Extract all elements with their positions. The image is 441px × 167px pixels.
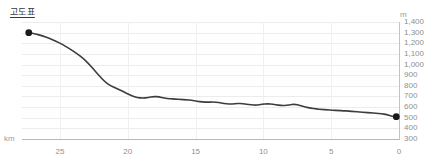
y-tick-label: 300 [404, 134, 417, 143]
y-tick-label: 1,000 [404, 60, 424, 69]
y-tick-label: 1,400 [404, 17, 424, 26]
y-tick-label: 800 [404, 81, 417, 90]
y-tick-label: 1,300 [404, 28, 424, 37]
elevation-line-path [29, 33, 397, 117]
y-tick-label: 500 [404, 113, 417, 122]
y-tick-label: 1,200 [404, 38, 424, 47]
y-tick-label: 400 [404, 123, 417, 132]
horizontal-gridlines [22, 23, 399, 140]
x-tick-label: 25 [56, 147, 65, 156]
x-tick-label: 10 [259, 147, 268, 156]
y-tick-label: 1,100 [404, 49, 424, 58]
vertical-gridlines [61, 22, 400, 139]
elevation-profile-plot [0, 0, 441, 167]
y-tick-label: 900 [404, 70, 417, 79]
end-point-marker [393, 113, 400, 120]
elevation-endpoint-markers [25, 29, 399, 120]
x-tick-label: 15 [191, 147, 200, 156]
x-tick-label: 5 [329, 147, 333, 156]
y-tick-label: 600 [404, 102, 417, 111]
x-tick-label: 20 [123, 147, 132, 156]
x-tick-label: 0 [397, 147, 401, 156]
y-tick-label: 700 [404, 91, 417, 100]
elevation-chart-widget: 고도표 m km 3004005006007008009001,0001,100… [0, 0, 441, 167]
start-point-marker [25, 29, 32, 36]
